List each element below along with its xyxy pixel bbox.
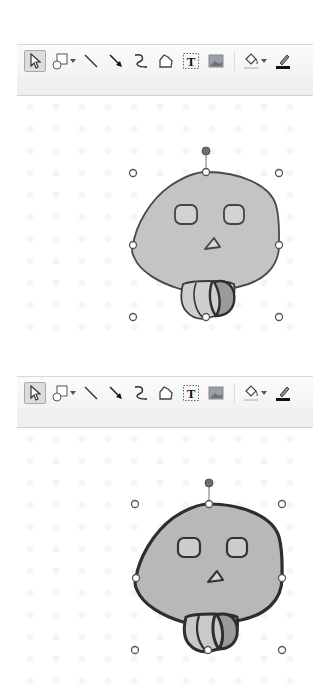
resize-handle-top[interactable] [203,169,210,176]
resize-handle-right[interactable] [279,575,286,582]
resize-handle-bottom[interactable] [203,314,210,321]
resize-handle-bottom-left[interactable] [132,647,139,654]
rotation-handle[interactable] [205,479,213,487]
resize-handle-bottom-left[interactable] [130,314,137,321]
resize-handle-top-left[interactable] [132,501,139,508]
rotation-handle[interactable] [202,147,210,155]
skull-shape-after[interactable] [135,504,282,652]
resize-handle-right[interactable] [276,242,283,249]
resize-handle-top[interactable] [206,501,213,508]
resize-handle-left[interactable] [133,575,140,582]
skull-shape-before[interactable] [132,172,279,319]
canvas-overlay [0,0,332,694]
resize-handle-bottom-right[interactable] [279,647,286,654]
resize-handle-top-right[interactable] [276,170,283,177]
resize-handle-top-right[interactable] [279,501,286,508]
resize-handle-bottom[interactable] [205,647,212,654]
resize-handle-bottom-right[interactable] [276,314,283,321]
resize-handle-top-left[interactable] [130,170,137,177]
resize-handle-left[interactable] [130,242,137,249]
